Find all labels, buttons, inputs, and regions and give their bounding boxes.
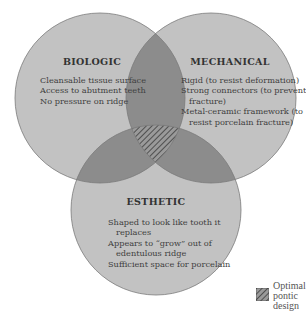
- esthetic-item: Sufficient space for porcelain: [108, 259, 230, 269]
- mechanical-item: Rigid (to resist deformation): [181, 75, 306, 85]
- mechanical-item: resist porcelain fracture): [181, 117, 306, 127]
- biologic-heading: BIOLOGIC: [52, 56, 132, 67]
- legend-line: design: [273, 301, 306, 311]
- esthetic-heading: ESTHETIC: [116, 196, 196, 207]
- biologic-item: No pressure on ridge: [40, 96, 146, 106]
- venn-diagram: [0, 0, 306, 328]
- legend-hatch-swatch: [256, 288, 269, 301]
- biologic-item: Access to abutment teeth: [40, 85, 146, 95]
- esthetic-item: replaces: [108, 227, 230, 237]
- mechanical-item: fracture): [181, 96, 306, 106]
- mechanical-heading: MECHANICAL: [185, 56, 275, 67]
- mechanical-items: Rigid (to resist deformation) Strong con…: [181, 75, 306, 127]
- mechanical-item: Metal-ceramic framework (to: [181, 106, 306, 116]
- esthetic-item: Appears to “grow” out of: [108, 238, 230, 248]
- esthetic-item: Shaped to look like tooth it: [108, 217, 230, 227]
- esthetic-item: edentulous ridge: [108, 248, 230, 258]
- biologic-item: Cleansable tissue surface: [40, 75, 146, 85]
- biologic-items: Cleansable tissue surface Access to abut…: [40, 75, 146, 106]
- legend-label: Optimal pontic design: [273, 281, 306, 311]
- esthetic-items: Shaped to look like tooth it replaces Ap…: [108, 217, 230, 269]
- mechanical-item: Strong connectors (to prevent: [181, 85, 306, 95]
